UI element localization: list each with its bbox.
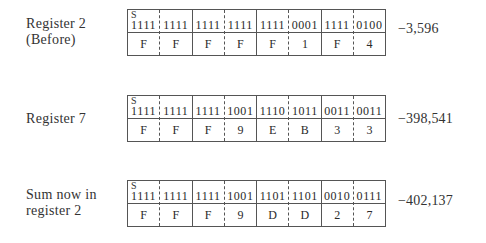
nibble-6: 1011 B bbox=[289, 96, 320, 141]
nibble-7: 1111 F bbox=[322, 10, 354, 55]
nibble-1: S 1111 F bbox=[128, 96, 160, 141]
nibble-hex: E bbox=[257, 119, 288, 141]
bits-cell: 1111 bbox=[225, 10, 256, 33]
byte-2: 1111 F 1001 9 bbox=[193, 181, 258, 226]
byte-3: 1111 F 0001 1 bbox=[257, 10, 322, 55]
nibble-8: 0100 4 bbox=[354, 10, 385, 55]
nibble-hex: B bbox=[289, 119, 320, 141]
nibble-hex: F bbox=[128, 204, 159, 226]
nibble-4: 1111 F bbox=[225, 10, 256, 55]
register-label: Register 2 (Before) bbox=[26, 16, 86, 48]
register-label-line-2: (Before) bbox=[26, 32, 86, 48]
nibble-3: 1111 F bbox=[193, 96, 225, 141]
bits-cell: 0100 bbox=[354, 10, 385, 33]
register-label-line-1: Sum now in bbox=[26, 187, 97, 203]
bits-cell: 0111 bbox=[354, 181, 385, 204]
nibble-bits: 0011 bbox=[354, 105, 385, 117]
nibble-4: 1001 9 bbox=[225, 96, 256, 141]
nibble-bits: 1110 bbox=[257, 105, 288, 117]
nibble-hex: F bbox=[160, 119, 191, 141]
nibble-5: 1101 D bbox=[257, 181, 289, 226]
bits-cell: 1111 bbox=[193, 181, 224, 204]
nibble-bits: 1111 bbox=[193, 190, 224, 202]
byte-3: 1101 D 1101 D bbox=[257, 181, 322, 226]
nibble-bits: 0011 bbox=[322, 105, 353, 117]
nibble-hex: 1 bbox=[289, 33, 320, 55]
nibble-hex: D bbox=[257, 204, 288, 226]
register-label-line-2: register 2 bbox=[26, 203, 97, 219]
register-label: Sum now in register 2 bbox=[26, 187, 97, 219]
nibble-bits: 1111 bbox=[193, 105, 224, 117]
nibble-7: 0011 3 bbox=[322, 96, 354, 141]
nibble-3: 1111 F bbox=[193, 181, 225, 226]
nibble-hex: 4 bbox=[354, 33, 385, 55]
register-box: S 1111 F 1111 F 1111 F 1001 9 1101 bbox=[127, 180, 386, 227]
nibble-hex: D bbox=[289, 204, 320, 226]
nibble-hex: 3 bbox=[354, 119, 385, 141]
bits-cell: 1001 bbox=[225, 181, 256, 204]
register-row-sum-register-2: Sum now in register 2 S 1111 F 1111 F 11… bbox=[0, 180, 486, 230]
nibble-bits: 1111 bbox=[322, 19, 353, 31]
nibble-hex: F bbox=[225, 33, 256, 55]
nibble-bits: 0001 bbox=[289, 19, 320, 31]
nibble-bits: 1111 bbox=[193, 19, 224, 31]
nibble-6: 0001 1 bbox=[289, 10, 320, 55]
nibble-2: 1111 F bbox=[160, 96, 191, 141]
byte-2: 1111 F 1001 9 bbox=[193, 96, 258, 141]
nibble-bits: 1111 bbox=[128, 105, 159, 117]
nibble-bits: 1111 bbox=[128, 190, 159, 202]
nibble-bits: 1001 bbox=[225, 105, 256, 117]
bits-cell: 1111 bbox=[160, 181, 191, 204]
bits-cell: S 1111 bbox=[128, 96, 159, 119]
bits-cell: 1111 bbox=[160, 10, 191, 33]
register-label-line-1: Register 2 bbox=[26, 16, 86, 32]
nibble-bits: 1101 bbox=[289, 190, 320, 202]
bits-cell: 1111 bbox=[322, 10, 353, 33]
nibble-1: S 1111 F bbox=[128, 10, 160, 55]
bits-cell: 1101 bbox=[257, 181, 288, 204]
bits-cell: 0010 bbox=[322, 181, 353, 204]
nibble-hex: F bbox=[128, 33, 159, 55]
register-box: S 1111 F 1111 F 1111 F 1111 F 1111 bbox=[127, 9, 386, 56]
byte-1: S 1111 F 1111 F bbox=[128, 96, 193, 141]
decimal-value: −398,541 bbox=[398, 111, 453, 127]
nibble-2: 1111 F bbox=[160, 181, 191, 226]
nibble-hex: 3 bbox=[322, 119, 353, 141]
register-label: Register 7 bbox=[26, 111, 86, 127]
nibble-4: 1001 9 bbox=[225, 181, 256, 226]
bits-cell: 1110 bbox=[257, 96, 288, 119]
nibble-bits: 1011 bbox=[289, 105, 320, 117]
byte-2: 1111 F 1111 F bbox=[193, 10, 258, 55]
bits-cell: S 1111 bbox=[128, 10, 159, 33]
bits-cell: 1011 bbox=[289, 96, 320, 119]
byte-1: S 1111 F 1111 F bbox=[128, 181, 193, 226]
bits-cell: 0001 bbox=[289, 10, 320, 33]
nibble-2: 1111 F bbox=[160, 10, 191, 55]
nibble-bits: 1001 bbox=[225, 190, 256, 202]
register-row-register-2-before: Register 2 (Before) S 1111 F 1111 F 1111… bbox=[0, 9, 486, 59]
nibble-bits: 1101 bbox=[257, 190, 288, 202]
nibble-5: 1110 E bbox=[257, 96, 289, 141]
register-row-register-7: Register 7 S 1111 F 1111 F 1111 F 1001 bbox=[0, 95, 486, 145]
bits-cell: 0011 bbox=[354, 96, 385, 119]
nibble-6: 1101 D bbox=[289, 181, 320, 226]
nibble-7: 0010 2 bbox=[322, 181, 354, 226]
nibble-hex: F bbox=[128, 119, 159, 141]
nibble-8: 0111 7 bbox=[354, 181, 385, 226]
decimal-value: −402,137 bbox=[398, 193, 453, 209]
nibble-1: S 1111 F bbox=[128, 181, 160, 226]
nibble-hex: 9 bbox=[225, 204, 256, 226]
nibble-bits: 1111 bbox=[160, 19, 191, 31]
nibble-8: 0011 3 bbox=[354, 96, 385, 141]
nibble-3: 1111 F bbox=[193, 10, 225, 55]
nibble-hex: F bbox=[257, 33, 288, 55]
bits-cell: 1111 bbox=[193, 96, 224, 119]
byte-1: S 1111 F 1111 F bbox=[128, 10, 193, 55]
nibble-hex: F bbox=[322, 33, 353, 55]
nibble-bits: 1111 bbox=[160, 190, 191, 202]
bits-cell: S 1111 bbox=[128, 181, 159, 204]
nibble-hex: 7 bbox=[354, 204, 385, 226]
nibble-bits: 0100 bbox=[354, 19, 385, 31]
decimal-value: −3,596 bbox=[398, 21, 439, 37]
nibble-hex: F bbox=[193, 33, 224, 55]
